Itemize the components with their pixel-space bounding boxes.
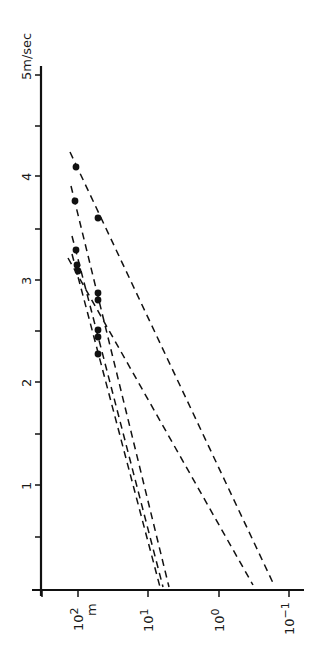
fit-line-e — [68, 258, 253, 585]
velocity-distance-chart: 5m/sec 4 3 2 1 102 m 101 100 10−1 — [0, 0, 320, 651]
y-label-3: 3 — [19, 277, 34, 285]
fit-line-b — [71, 186, 169, 587]
data-points — [72, 164, 102, 358]
y-label-5: 5m/sec — [19, 33, 34, 80]
y-label-4: 4 — [19, 173, 34, 181]
fit-line-c — [72, 236, 163, 587]
y-label-2: 2 — [19, 379, 34, 387]
fit-line-d — [72, 254, 160, 587]
svg-text:10−1: 10−1 — [279, 602, 297, 635]
y-label-1: 1 — [19, 482, 34, 490]
x-label-10e0: 100 — [209, 608, 227, 632]
x-label-10e1: 101 — [138, 608, 156, 632]
svg-text:101: 101 — [138, 608, 156, 632]
x-unit-m: m — [84, 603, 99, 616]
x-label-10e-1: 10−1 — [279, 602, 297, 635]
svg-text:100: 100 — [209, 608, 227, 632]
